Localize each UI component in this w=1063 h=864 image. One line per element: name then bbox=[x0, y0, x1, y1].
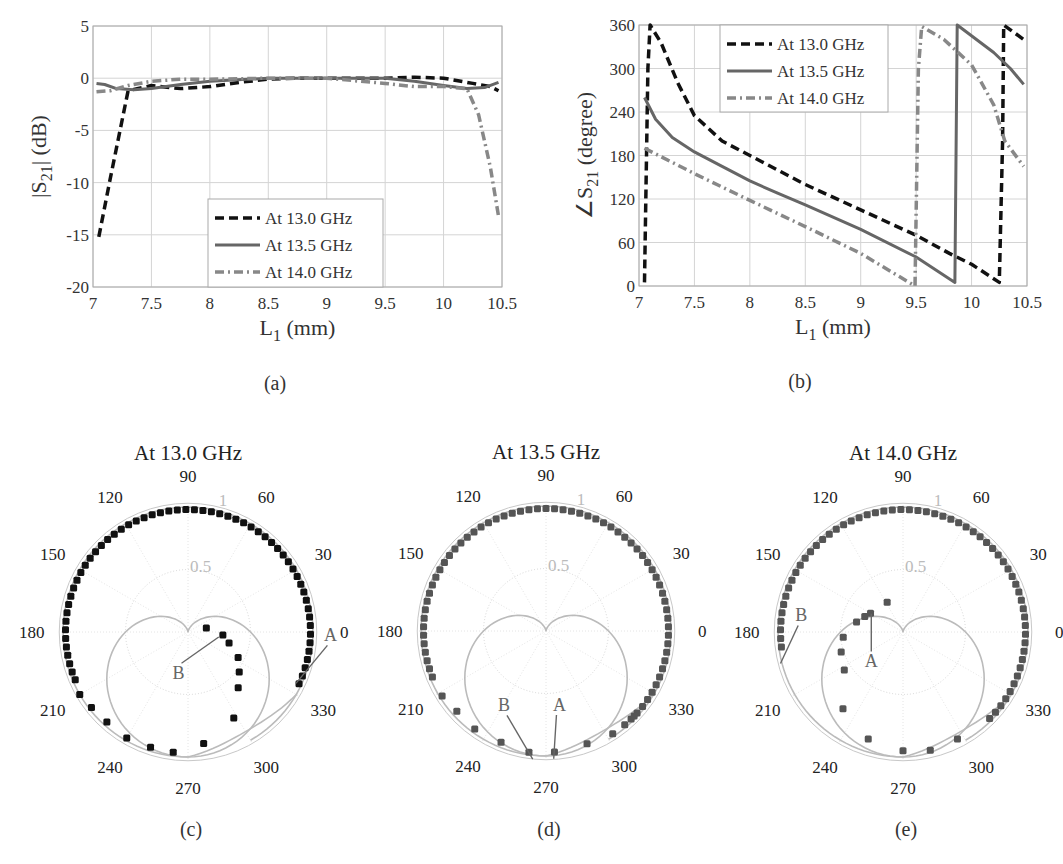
marker bbox=[517, 508, 524, 515]
y-tick-label: 0 bbox=[627, 277, 636, 296]
marker bbox=[1009, 573, 1016, 580]
marker bbox=[304, 656, 311, 663]
marker bbox=[157, 509, 164, 516]
marker bbox=[65, 601, 72, 608]
angle-tick-label: 180 bbox=[377, 622, 403, 641]
polar-title: At 13.5 GHz bbox=[492, 440, 600, 464]
marker bbox=[191, 506, 198, 513]
marker bbox=[1005, 565, 1012, 572]
x-tick-label: 7.5 bbox=[684, 293, 705, 312]
legend-entry: At 13.0 GHz bbox=[777, 35, 865, 54]
angle-tick-label: 240 bbox=[455, 757, 481, 776]
marker bbox=[70, 585, 77, 592]
x-axis-label: L1 (mm) bbox=[795, 314, 871, 343]
marker bbox=[777, 618, 784, 625]
y-tick-label: 180 bbox=[610, 147, 636, 166]
marker bbox=[923, 508, 930, 515]
angle-tick-label: 240 bbox=[812, 758, 838, 777]
legend-entry: At 13.0 GHz bbox=[265, 209, 353, 228]
angle-tick-label: 180 bbox=[19, 623, 45, 642]
x-tick-label: 9 bbox=[322, 294, 331, 313]
marker bbox=[848, 517, 855, 524]
marker bbox=[1019, 656, 1026, 663]
angle-tick-label: 330 bbox=[669, 700, 695, 719]
legend-entry: At 13.5 GHz bbox=[777, 62, 865, 81]
marker bbox=[66, 660, 73, 667]
marker bbox=[426, 590, 433, 597]
marker bbox=[664, 640, 671, 647]
marker bbox=[248, 523, 255, 530]
marker bbox=[970, 528, 977, 535]
marker bbox=[631, 713, 638, 720]
marker bbox=[174, 506, 181, 513]
marker bbox=[199, 507, 206, 514]
marker bbox=[989, 545, 996, 552]
marker bbox=[118, 526, 125, 533]
marker bbox=[963, 523, 970, 530]
marker bbox=[1011, 680, 1018, 687]
marker bbox=[889, 506, 896, 513]
annotation-label: A bbox=[865, 651, 878, 671]
marker bbox=[133, 517, 140, 524]
marker bbox=[663, 606, 670, 613]
marker bbox=[840, 521, 847, 528]
radial-tick-label: 1 bbox=[934, 491, 943, 510]
caption: (d) bbox=[537, 818, 560, 841]
marker bbox=[62, 635, 69, 642]
y-axis-label: ∠S21 (degree) bbox=[572, 92, 601, 219]
marker bbox=[216, 510, 223, 517]
radial-tick-label: 1 bbox=[219, 491, 228, 510]
marker bbox=[954, 735, 961, 742]
marker bbox=[98, 542, 105, 549]
marker bbox=[788, 577, 795, 584]
angle-tick-label: 60 bbox=[258, 488, 275, 507]
angle-tick-label: 120 bbox=[455, 487, 481, 506]
marker bbox=[77, 569, 84, 576]
marker bbox=[420, 632, 427, 639]
marker bbox=[1000, 558, 1007, 565]
marker bbox=[232, 516, 239, 523]
marker bbox=[840, 634, 847, 641]
y-tick-label: -15 bbox=[66, 226, 89, 245]
angle-tick-label: 120 bbox=[97, 488, 123, 507]
series-line bbox=[97, 78, 499, 216]
caption: (a) bbox=[264, 372, 286, 395]
marker bbox=[429, 582, 436, 589]
legend-entry: At 14.0 GHz bbox=[265, 263, 353, 282]
y-tick-label: 300 bbox=[610, 60, 636, 79]
marker bbox=[927, 747, 934, 754]
radial-tick-label: 0.5 bbox=[548, 556, 569, 575]
marker bbox=[111, 531, 118, 538]
marker bbox=[955, 519, 962, 526]
marker bbox=[230, 715, 237, 722]
marker bbox=[778, 643, 785, 650]
marker bbox=[560, 506, 567, 513]
marker bbox=[659, 665, 666, 672]
marker bbox=[777, 635, 784, 642]
marker bbox=[307, 622, 314, 629]
marker bbox=[992, 709, 999, 716]
marker bbox=[644, 696, 651, 703]
marker bbox=[441, 559, 448, 566]
marker bbox=[446, 552, 453, 559]
marker bbox=[451, 546, 458, 553]
marker bbox=[436, 566, 443, 573]
marker bbox=[125, 521, 132, 528]
radial-tick-label: 0.5 bbox=[905, 557, 926, 576]
marker bbox=[819, 536, 826, 543]
marker bbox=[1020, 648, 1027, 655]
marker bbox=[147, 744, 154, 751]
marker bbox=[262, 533, 269, 540]
legend: At 13.0 GHzAt 13.5 GHzAt 14.0 GHz bbox=[720, 25, 888, 112]
marker bbox=[543, 505, 550, 512]
marker bbox=[664, 615, 671, 622]
marker bbox=[429, 673, 436, 680]
marker bbox=[621, 534, 628, 541]
marker bbox=[534, 505, 541, 512]
marker bbox=[947, 516, 954, 523]
marker bbox=[439, 692, 446, 699]
marker bbox=[607, 524, 614, 531]
marker bbox=[235, 654, 242, 661]
angle-tick-label: 330 bbox=[1026, 701, 1052, 720]
marker bbox=[995, 551, 1002, 558]
